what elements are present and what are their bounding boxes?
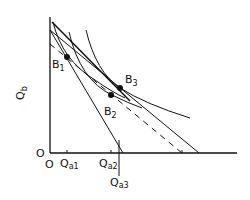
label-b2: B2 bbox=[104, 105, 117, 120]
compensated-budget-line-dashed bbox=[50, 44, 182, 153]
point-b3 bbox=[117, 85, 123, 91]
label-b3: B3 bbox=[125, 73, 138, 88]
point-b1 bbox=[64, 54, 70, 60]
x-label-qa2: Qa2 bbox=[99, 157, 118, 171]
point-b2 bbox=[108, 92, 114, 98]
budget-line-b1-b2 bbox=[50, 30, 199, 153]
x-label-qa3: Qa3 bbox=[110, 176, 129, 190]
y-axis-label: Qb bbox=[14, 86, 29, 100]
origin-label-x: O bbox=[45, 158, 54, 171]
diagram-canvas: B1 B2 B3 Qb O O Qa1 Qa2 Qa3 bbox=[0, 0, 250, 200]
origin-label-y: O bbox=[36, 147, 45, 160]
label-b1: B1 bbox=[52, 58, 65, 73]
indifference-curve-diagram: B1 B2 B3 Qb O O Qa1 Qa2 Qa3 bbox=[0, 0, 250, 200]
svg-text:Qb: Qb bbox=[14, 86, 29, 100]
indifference-curve-3 bbox=[86, 30, 190, 118]
x-label-qa1: Qa1 bbox=[60, 157, 79, 171]
